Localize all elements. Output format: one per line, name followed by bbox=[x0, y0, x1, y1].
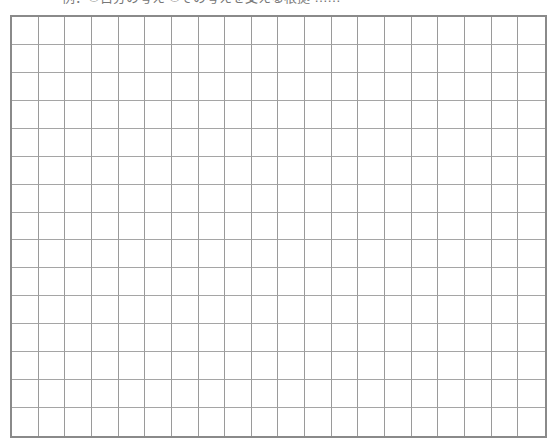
grid-cell bbox=[225, 45, 252, 73]
grid-cell bbox=[145, 157, 172, 185]
grid-cell bbox=[332, 17, 359, 45]
grid-cell bbox=[92, 157, 119, 185]
grid-cell bbox=[305, 129, 332, 157]
grid-cell bbox=[278, 380, 305, 408]
grid-cell bbox=[119, 324, 146, 352]
grid-cell bbox=[518, 157, 545, 185]
grid-cell bbox=[385, 268, 412, 296]
grid-cell bbox=[412, 101, 439, 129]
grid-cell bbox=[465, 185, 492, 213]
grid-cell bbox=[119, 296, 146, 324]
grid-cell bbox=[278, 101, 305, 129]
grid-cell bbox=[278, 129, 305, 157]
grid-cell bbox=[145, 213, 172, 241]
grid-cell bbox=[305, 352, 332, 380]
grid-cell bbox=[65, 129, 92, 157]
grid-cell bbox=[65, 268, 92, 296]
grid-cell bbox=[92, 17, 119, 45]
grid-cell bbox=[358, 45, 385, 73]
grid-cell bbox=[385, 157, 412, 185]
grid-cell bbox=[492, 240, 519, 268]
grid-cell bbox=[225, 101, 252, 129]
grid-cell bbox=[225, 268, 252, 296]
grid-cell bbox=[92, 45, 119, 73]
grid-cell bbox=[305, 185, 332, 213]
grid-cell bbox=[92, 296, 119, 324]
grid-cell bbox=[518, 380, 545, 408]
grid-cell bbox=[199, 268, 226, 296]
grid-cell bbox=[305, 296, 332, 324]
grid-cell bbox=[145, 240, 172, 268]
grid-cell bbox=[305, 268, 332, 296]
grid-cell bbox=[172, 352, 199, 380]
grid-cell bbox=[385, 240, 412, 268]
grid-cell bbox=[358, 157, 385, 185]
grid-cell bbox=[199, 352, 226, 380]
grid-cell bbox=[412, 240, 439, 268]
grid-cell bbox=[39, 296, 66, 324]
grid-cell bbox=[65, 101, 92, 129]
grid-cell bbox=[438, 73, 465, 101]
grid-cell bbox=[65, 352, 92, 380]
grid-cell bbox=[172, 296, 199, 324]
grid-cell bbox=[119, 213, 146, 241]
grid-cell bbox=[278, 213, 305, 241]
grid-cell bbox=[438, 268, 465, 296]
grid-cell bbox=[278, 45, 305, 73]
grid-cell bbox=[225, 240, 252, 268]
grid-cell bbox=[438, 296, 465, 324]
grid-cell bbox=[465, 73, 492, 101]
grid-cell bbox=[412, 45, 439, 73]
grid-cell bbox=[358, 213, 385, 241]
grid-cell bbox=[358, 185, 385, 213]
grid-cell bbox=[119, 268, 146, 296]
grid-cell bbox=[39, 101, 66, 129]
grid-cell bbox=[119, 408, 146, 436]
grid-cell bbox=[172, 185, 199, 213]
grid-cell bbox=[278, 296, 305, 324]
grid-cell bbox=[12, 240, 39, 268]
grid-cell bbox=[225, 408, 252, 436]
grid-cell bbox=[65, 213, 92, 241]
grid-cell bbox=[199, 408, 226, 436]
grid-cell bbox=[225, 157, 252, 185]
grid-cell bbox=[305, 73, 332, 101]
grid-cell bbox=[438, 185, 465, 213]
grid-cell bbox=[172, 408, 199, 436]
grid-cell bbox=[305, 17, 332, 45]
grid-cell bbox=[385, 352, 412, 380]
grid-cell bbox=[358, 352, 385, 380]
grid-cell bbox=[252, 129, 279, 157]
grid-cell bbox=[225, 380, 252, 408]
grid-cell bbox=[39, 73, 66, 101]
grid-cell bbox=[92, 213, 119, 241]
grid-cell bbox=[385, 101, 412, 129]
grid-cell bbox=[225, 352, 252, 380]
grid-cell bbox=[119, 352, 146, 380]
grid-cell bbox=[119, 240, 146, 268]
grid-cell bbox=[518, 73, 545, 101]
grid-cell bbox=[172, 380, 199, 408]
grid-cell bbox=[305, 240, 332, 268]
grid-cell bbox=[385, 408, 412, 436]
grid-cell bbox=[305, 380, 332, 408]
grid-cell bbox=[145, 268, 172, 296]
grid-cell bbox=[278, 268, 305, 296]
grid-cell bbox=[39, 380, 66, 408]
grid-cell bbox=[278, 17, 305, 45]
grid-cell bbox=[438, 157, 465, 185]
grid-cell bbox=[199, 324, 226, 352]
grid-cell bbox=[438, 352, 465, 380]
grid-cell bbox=[92, 129, 119, 157]
grid-cell bbox=[385, 296, 412, 324]
grid-cell bbox=[465, 45, 492, 73]
grid-cell bbox=[465, 324, 492, 352]
grid-cell bbox=[492, 157, 519, 185]
grid-cell bbox=[518, 408, 545, 436]
grid-cell bbox=[145, 296, 172, 324]
grid-cell bbox=[518, 213, 545, 241]
grid-cell bbox=[119, 380, 146, 408]
grid-cell bbox=[199, 380, 226, 408]
grid-cell bbox=[412, 408, 439, 436]
grid-cell bbox=[492, 296, 519, 324]
